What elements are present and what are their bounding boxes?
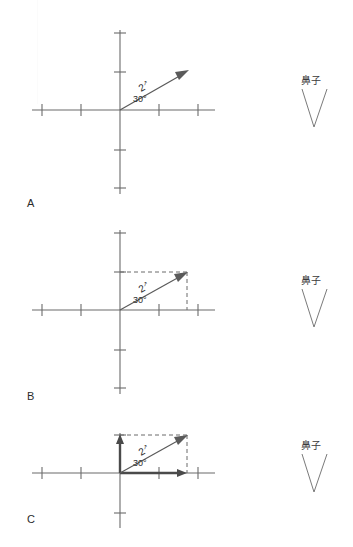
side-annotation-text-b: 鼻子 (301, 272, 321, 287)
x-component-arrow (120, 469, 187, 477)
vector-arrow (120, 272, 188, 310)
angle-label: 30° (133, 94, 147, 104)
panel-c: 30° 2↗ C 鼻子 (0, 410, 353, 547)
v-shape-icon (302, 454, 327, 492)
magnitude-label: 2↗ (137, 280, 152, 295)
panel-label-a: A (27, 197, 35, 209)
v-shape-icon (302, 289, 327, 327)
panel-c-diagram: 30° 2↗ (0, 410, 353, 547)
magnitude-label: 2↗ (137, 79, 152, 94)
y-component-arrow (116, 434, 124, 473)
vector-arrow (120, 70, 189, 110)
panel-b-diagram: 30° 2↗ (0, 215, 353, 410)
panel-a: 30° 2↗ A 鼻子 (0, 0, 353, 220)
panel-b: 30° 2↗ B 鼻子 (0, 215, 353, 410)
panel-label-b: B (27, 390, 35, 402)
side-annotation-text-a: 鼻子 (301, 72, 321, 87)
angle-label: 30° (133, 295, 147, 305)
vector-arrow (120, 435, 188, 473)
v-shape-icon (302, 89, 327, 127)
panel-label-c: C (27, 513, 35, 525)
magnitude-label: 2↗ (137, 443, 152, 458)
side-annotation-text-c: 鼻子 (301, 437, 321, 452)
angle-label: 30° (133, 458, 147, 468)
panel-a-diagram: 30° 2↗ (0, 0, 353, 220)
